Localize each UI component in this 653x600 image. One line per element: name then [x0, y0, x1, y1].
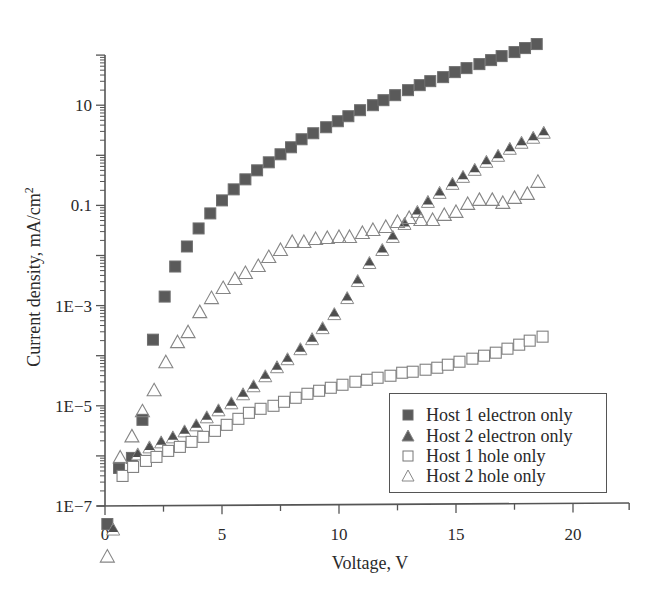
y-tick-label: 1E−7 — [55, 497, 92, 516]
triangle-filled-marker-icon — [400, 428, 416, 444]
legend-item-host2-electron: Host 2 electron only — [400, 426, 572, 446]
x-tick-label: 20 — [565, 525, 582, 544]
legend-label: Host 2 electron only — [426, 426, 572, 447]
y-tick-label: 1E−5 — [55, 397, 92, 416]
legend-item-host1-electron: Host 1 electron only — [400, 405, 572, 425]
legend: Host 1 electron only Host 2 electron onl… — [389, 393, 607, 493]
triangle-open-marker-icon — [400, 468, 416, 484]
x-axis-line — [97, 503, 629, 506]
y-axis-title-superscript: 2 — [22, 187, 36, 193]
legend-label: Host 1 electron only — [426, 405, 572, 426]
square-open-marker-icon — [400, 448, 416, 464]
legend-label: Host 2 hole only — [426, 466, 546, 487]
y-tick-label: 0.1 — [71, 196, 92, 215]
square-filled-marker-icon — [400, 407, 416, 423]
x-tick-label: 10 — [331, 525, 348, 544]
x-axis-title: Voltage, V — [332, 553, 408, 573]
legend-item-host1-hole: Host 1 hole only — [400, 446, 546, 466]
chart-plot-area: 051015201E−71E−51E−30.110 Voltage, V Cur… — [0, 0, 653, 600]
y-tick-label: 10 — [75, 96, 92, 115]
y-axis-title: Current density, mA/cm2 — [22, 187, 44, 366]
y-axis-title-base: Current density, mA/cm — [24, 193, 44, 366]
y-tick-label: 1E−3 — [55, 297, 92, 316]
x-tick-label: 5 — [218, 525, 227, 544]
x-tick-label: 15 — [448, 525, 465, 544]
legend-label: Host 1 hole only — [426, 446, 546, 467]
legend-item-host2-hole: Host 2 hole only — [400, 466, 546, 486]
